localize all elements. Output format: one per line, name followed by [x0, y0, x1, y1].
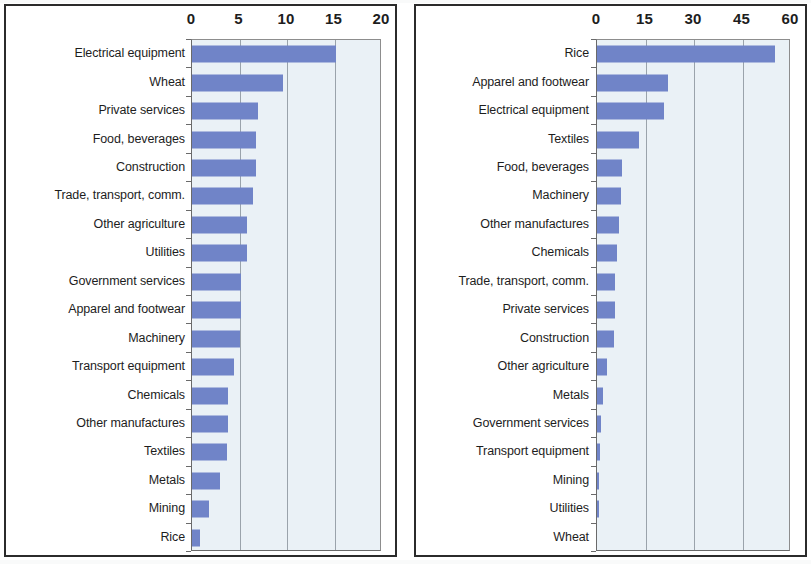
y-tick-mark [186, 466, 191, 467]
category-label: Textiles [548, 132, 589, 146]
y-tick-mark [591, 323, 596, 324]
category-label: Metals [553, 388, 589, 402]
bar-row [192, 353, 380, 381]
bar [192, 159, 256, 176]
bar-row [597, 125, 789, 153]
bar-row [192, 467, 380, 495]
category-label: Private services [502, 302, 589, 316]
chart-panel-left: 05101520 Electrical equipmentWheatPrivat… [4, 4, 397, 557]
y-tick-mark [186, 551, 191, 552]
category-label: Government services [473, 416, 589, 430]
category-label: Other agriculture [498, 359, 589, 373]
bar [192, 131, 256, 148]
bar-row [597, 268, 789, 296]
x-tick-label: 15 [636, 10, 653, 27]
category-label: Transport equipment [476, 444, 589, 458]
bar [597, 415, 601, 432]
bar [192, 330, 240, 347]
y-tick-mark [591, 352, 596, 353]
bar-row [597, 381, 789, 409]
category-label: Machinery [128, 331, 185, 345]
bar-row [597, 353, 789, 381]
category-label: Construction [520, 331, 589, 345]
category-label: Trade, transport, comm. [458, 274, 589, 288]
y-tick-mark [591, 466, 596, 467]
category-label: Other manufactures [76, 416, 185, 430]
y-tick-mark [591, 181, 596, 182]
category-label: Other manufactures [480, 217, 589, 231]
y-tick-mark [591, 124, 596, 125]
y-tick-mark [591, 210, 596, 211]
bar-row [597, 324, 789, 352]
x-tick-label: 60 [781, 10, 798, 27]
category-label: Transport equipment [72, 359, 185, 373]
bar [597, 387, 603, 404]
y-tick-mark [186, 323, 191, 324]
bar [192, 501, 209, 518]
x-tick-label: 0 [592, 10, 601, 27]
y-tick-mark [591, 523, 596, 524]
bar-row [597, 239, 789, 267]
category-label: Chemicals [532, 245, 589, 259]
bar [192, 387, 228, 404]
category-label: Rice [160, 530, 185, 544]
y-tick-mark [186, 96, 191, 97]
x-tick-label: 10 [277, 10, 294, 27]
y-tick-mark [591, 67, 596, 68]
y-tick-mark [591, 96, 596, 97]
bar [192, 74, 283, 91]
category-label: Chemicals [128, 388, 185, 402]
category-label: Wheat [149, 75, 185, 89]
x-axis-tick-labels-left: 05101520 [6, 10, 395, 34]
category-label: Electrical equipment [478, 103, 589, 117]
bar [597, 273, 615, 290]
y-tick-mark [591, 437, 596, 438]
bar [597, 74, 668, 91]
category-label: Construction [116, 160, 185, 174]
category-label: Private services [98, 103, 185, 117]
x-tick-label: 0 [187, 10, 196, 27]
bar [192, 46, 336, 63]
scan-artifact [0, 0, 811, 3]
y-tick-mark [591, 153, 596, 154]
bar-row [597, 524, 789, 551]
bar [192, 359, 234, 376]
x-axis-tick-labels-right: 015304560 [416, 10, 805, 34]
category-label: Wheat [553, 530, 589, 544]
category-label: Apparel and footwear [68, 302, 185, 316]
x-tick-label: 20 [372, 10, 389, 27]
bar-row [597, 97, 789, 125]
bar-row [597, 410, 789, 438]
y-tick-mark [186, 238, 191, 239]
bar [192, 245, 247, 262]
x-tick-label: 5 [234, 10, 243, 27]
bar-row [597, 182, 789, 210]
bar-row [597, 296, 789, 324]
scan-artifact [0, 560, 811, 564]
y-tick-mark [591, 267, 596, 268]
category-labels-right: RiceApparel and footwearElectrical equip… [426, 39, 589, 551]
bar [597, 188, 621, 205]
y-tick-mark [591, 409, 596, 410]
y-tick-mark [591, 238, 596, 239]
bar [597, 302, 615, 319]
two-panel-bar-chart-figure: 05101520 Electrical equipmentWheatPrivat… [0, 0, 811, 564]
bar-row [192, 154, 380, 182]
y-tick-mark [186, 39, 191, 40]
bar-row [192, 381, 380, 409]
plot-area-right [596, 39, 790, 551]
bar [597, 501, 599, 518]
bar-row [192, 324, 380, 352]
bar [192, 415, 228, 432]
bar [192, 273, 241, 290]
bar [597, 103, 664, 120]
category-label: Electrical equipment [74, 46, 185, 60]
plot-area-left [191, 39, 381, 551]
bar-row [192, 125, 380, 153]
x-tick-label: 45 [733, 10, 750, 27]
category-label: Food, beverages [497, 160, 589, 174]
bar-row [597, 467, 789, 495]
bar-row [192, 68, 380, 96]
x-tick-label: 30 [684, 10, 701, 27]
y-tick-mark [591, 494, 596, 495]
